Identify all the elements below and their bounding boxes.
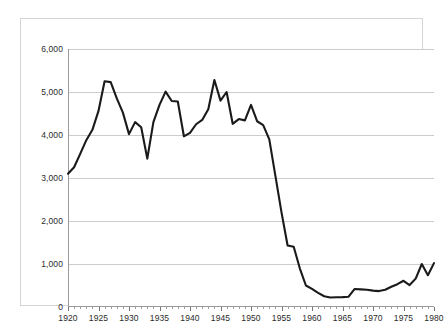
x-tick-minor (300, 307, 301, 309)
x-tick-minor (74, 307, 75, 309)
x-tick-minor (355, 307, 356, 309)
x-tick-label: 1920 (58, 313, 77, 323)
x-tick-minor (422, 307, 423, 309)
x-tick-major (129, 307, 130, 311)
x-tick-minor (397, 307, 398, 309)
x-tick-minor (257, 307, 258, 309)
x-tick-major (160, 307, 161, 311)
x-tick-label: 1970 (363, 313, 382, 323)
x-tick-minor (92, 307, 93, 309)
x-tick-minor (349, 307, 350, 309)
x-tick-major (68, 307, 69, 311)
x-tick-minor (263, 307, 264, 309)
x-tick-minor (428, 307, 429, 309)
x-tick-minor (153, 307, 154, 309)
x-tick-minor (367, 307, 368, 309)
x-tick-minor (391, 307, 392, 309)
x-tick-minor (269, 307, 270, 309)
x-tick-minor (111, 307, 112, 309)
chart-outer-frame: 01,0002,0003,0004,0005,0006,000 19201925… (20, 18, 423, 306)
x-tick-minor (141, 307, 142, 309)
x-tick-minor (410, 307, 411, 309)
x-tick-minor (416, 307, 417, 309)
x-tick-minor (184, 307, 185, 309)
x-tick-major (251, 307, 252, 311)
x-tick-major (221, 307, 222, 311)
x-tick-major (282, 307, 283, 311)
x-tick-minor (385, 307, 386, 309)
y-tick-label: 3,000 (41, 173, 63, 183)
x-tick-minor (318, 307, 319, 309)
x-tick-minor (239, 307, 240, 309)
x-tick-minor (379, 307, 380, 309)
x-tick-minor (294, 307, 295, 309)
x-tick-label: 1945 (211, 313, 230, 323)
x-tick-minor (172, 307, 173, 309)
x-tick-minor (196, 307, 197, 309)
x-tick-minor (214, 307, 215, 309)
x-tick-major (373, 307, 374, 311)
x-tick-minor (275, 307, 276, 309)
x-tick-minor (147, 307, 148, 309)
series-svg (68, 49, 434, 307)
x-tick-major (312, 307, 313, 311)
x-tick-minor (202, 307, 203, 309)
x-tick-minor (336, 307, 337, 309)
y-tick-label: 4,000 (41, 130, 63, 140)
x-tick-major (404, 307, 405, 311)
x-tick-label: 1940 (180, 313, 199, 323)
y-tick-label: 6,000 (41, 44, 63, 54)
data-series-line (68, 80, 434, 298)
x-tick-minor (330, 307, 331, 309)
plot-wrapper: 01,0002,0003,0004,0005,0006,000 19201925… (68, 49, 434, 307)
y-tick-label: 1,000 (41, 259, 63, 269)
x-tick-minor (135, 307, 136, 309)
x-tick-minor (233, 307, 234, 309)
x-tick-minor (105, 307, 106, 309)
x-tick-label: 1975 (394, 313, 413, 323)
x-tick-minor (227, 307, 228, 309)
x-tick-label: 1980 (424, 313, 443, 323)
x-tick-minor (166, 307, 167, 309)
x-tick-major (343, 307, 344, 311)
y-tick-label: 5,000 (41, 87, 63, 97)
x-tick-minor (123, 307, 124, 309)
x-tick-minor (178, 307, 179, 309)
plot-area: 01,0002,0003,0004,0005,0006,000 19201925… (68, 49, 434, 307)
x-tick-label: 1930 (119, 313, 138, 323)
x-tick-label: 1925 (89, 313, 108, 323)
y-tick-label: 0 (58, 302, 63, 312)
x-tick-minor (306, 307, 307, 309)
x-tick-minor (245, 307, 246, 309)
x-tick-label: 1935 (150, 313, 169, 323)
x-tick-minor (288, 307, 289, 309)
x-tick-major (99, 307, 100, 311)
x-tick-minor (361, 307, 362, 309)
x-tick-major (434, 307, 435, 311)
x-tick-major (190, 307, 191, 311)
x-tick-minor (324, 307, 325, 309)
x-tick-minor (80, 307, 81, 309)
x-tick-label: 1960 (302, 313, 321, 323)
x-tick-minor (208, 307, 209, 309)
x-tick-label: 1950 (241, 313, 260, 323)
x-tick-minor (117, 307, 118, 309)
x-tick-minor (86, 307, 87, 309)
x-tick-label: 1955 (272, 313, 291, 323)
x-tick-label: 1965 (333, 313, 352, 323)
y-tick-label: 2,000 (41, 216, 63, 226)
